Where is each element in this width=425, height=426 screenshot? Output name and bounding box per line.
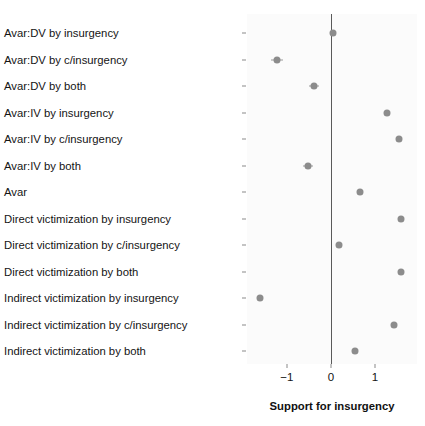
data-point — [391, 321, 398, 328]
y-axis-category-label: Direct victimization by c/insurgency — [4, 239, 234, 252]
data-point — [398, 215, 405, 222]
y-axis-category-label: Indirect victimization by insurgency — [4, 292, 234, 305]
y-axis-tick — [242, 245, 246, 246]
data-point — [274, 56, 281, 63]
data-point — [257, 295, 264, 302]
data-point — [383, 109, 390, 116]
y-axis-tick — [242, 218, 246, 219]
y-axis-category-label: Indirect victimization by both — [4, 345, 234, 358]
y-axis-tick — [242, 59, 246, 60]
data-point — [357, 189, 364, 196]
y-axis-category-label: Avar:IV by c/insurgency — [4, 133, 234, 146]
y-axis-category-label: Direct victimization by insurgency — [4, 212, 234, 225]
y-axis-tick — [242, 33, 246, 34]
x-axis-tick-label: 1 — [372, 371, 378, 384]
y-axis-tick — [242, 298, 246, 299]
y-axis-tick — [242, 324, 246, 325]
coefficient-plot-figure: Avar:DV by insurgencyAvar:DV by c/insurg… — [0, 0, 425, 426]
y-axis-category-label: Indirect victimization by c/insurgency — [4, 318, 234, 331]
y-axis-category-label: Avar:DV by insurgency — [4, 27, 234, 40]
y-axis-tick — [242, 165, 246, 166]
y-axis-tick — [242, 86, 246, 87]
x-axis-tick — [286, 364, 287, 368]
x-axis-title: Support for insurgency — [247, 400, 417, 412]
y-axis-category-label: Avar:DV by both — [4, 80, 234, 93]
data-point — [396, 136, 403, 143]
plot-area: −101 — [247, 14, 417, 364]
data-point — [352, 348, 359, 355]
y-axis-tick — [242, 271, 246, 272]
data-point — [311, 83, 318, 90]
plot-panel: −101 — [247, 14, 417, 364]
y-axis-category-label: Avar — [4, 186, 234, 199]
y-axis-tick — [242, 112, 246, 113]
data-point — [398, 268, 405, 275]
y-axis-category-label: Avar:DV by c/insurgency — [4, 53, 234, 66]
y-axis-tick — [242, 351, 246, 352]
x-axis-tick — [375, 364, 376, 368]
y-axis-tick — [242, 139, 246, 140]
zero-reference-line — [331, 14, 332, 364]
data-point — [335, 242, 342, 249]
data-point — [304, 162, 311, 169]
data-point — [330, 30, 337, 37]
x-axis-tick — [330, 364, 331, 368]
y-axis-category-label: Avar:IV by both — [4, 159, 234, 172]
x-axis-tick-label: −1 — [280, 371, 293, 384]
y-axis-category-labels: Avar:DV by insurgencyAvar:DV by c/insurg… — [0, 0, 238, 365]
y-axis-category-label: Direct victimization by both — [4, 265, 234, 278]
x-axis-tick-label: 0 — [328, 371, 334, 384]
y-axis-tick — [242, 192, 246, 193]
y-axis-category-label: Avar:IV by insurgency — [4, 106, 234, 119]
